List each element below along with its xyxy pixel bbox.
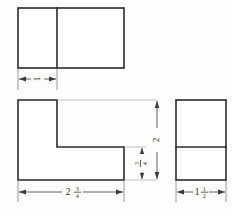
fraction-34-group: 3 4 [134, 160, 148, 167]
fraction-denominator-34: 4 [142, 162, 148, 165]
dimension-base-thickness: 3 4 [134, 148, 148, 179]
dimension-whole-112: 1 [195, 187, 200, 197]
arrow-bottom-2 [155, 172, 160, 179]
dimension-overall-depth: 1 1 2 [177, 186, 225, 200]
side-view-body [176, 100, 226, 180]
fraction-denominator-112: 2 [203, 193, 206, 199]
arrow-top-34 [140, 148, 144, 154]
top-view [18, 8, 124, 68]
dimension-overall-width: 2 3 4 [19, 186, 123, 200]
fraction-numerator-34: 3 [134, 162, 140, 165]
fraction-denominator-234: 4 [76, 193, 79, 199]
drawing-sheet: 1 2 3 4 [0, 0, 232, 216]
front-view [18, 100, 124, 180]
engineering-drawing-canvas: 1 2 3 4 [0, 0, 232, 216]
arrow-left-112 [177, 190, 184, 195]
dimension-234-extensions [18, 180, 124, 202]
arrow-bottom-34 [140, 173, 144, 179]
dimension-overall-height: 2 [151, 101, 161, 179]
arrow-right-234 [116, 190, 123, 195]
arrow-top-2 [155, 101, 160, 108]
dimension-label-1: 1 [32, 77, 42, 82]
fraction-numerator-112: 1 [203, 186, 206, 192]
arrow-right-112 [218, 190, 225, 195]
arrow-left-234 [19, 190, 26, 195]
arrow-left-1 [19, 77, 26, 82]
top-view-body [18, 8, 124, 68]
arrow-right-1 [49, 77, 56, 82]
fraction-numerator-234: 3 [76, 186, 79, 192]
dimension-whole-234: 2 [66, 187, 71, 197]
dimension-width-of-left-leg: 1 [19, 77, 56, 82]
right-side-view [176, 100, 226, 180]
dimension-label-2: 2 [151, 138, 161, 143]
front-view-body [18, 100, 124, 180]
